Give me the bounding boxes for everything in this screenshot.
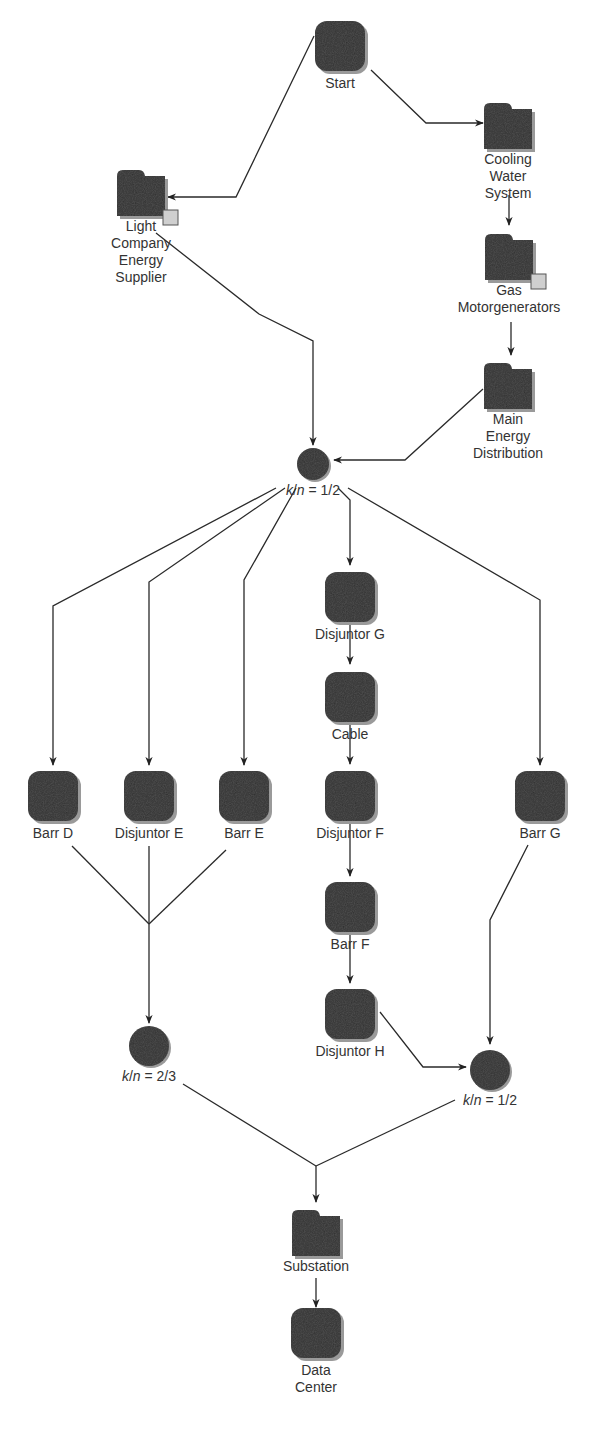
- label-kn1: k/n = 1/2: [286, 482, 340, 499]
- edge-barrG-to-kn3: [490, 845, 528, 1044]
- block-icon: [515, 771, 565, 821]
- nodes-layer: [28, 21, 568, 1361]
- edge-kn1-to-barrE: [244, 488, 296, 765]
- block-icon: [325, 771, 375, 821]
- label-kn3: k/n = 1/2: [463, 1092, 517, 1109]
- subsystem-folder-icon: [292, 1210, 340, 1256]
- node-barrG[interactable]: [515, 771, 568, 824]
- label-gas: GasMotorgenerators: [458, 282, 561, 316]
- block-icon: [325, 882, 375, 932]
- node-kn2[interactable]: [129, 1026, 171, 1068]
- node-substation[interactable]: [292, 1210, 343, 1259]
- label-cable: Cable: [332, 726, 369, 743]
- rbd-diagram: [0, 0, 595, 1430]
- block-icon: [325, 672, 375, 722]
- label-substation: Substation: [283, 1258, 349, 1275]
- node-barrF[interactable]: [325, 882, 378, 935]
- block-icon: [291, 1308, 341, 1358]
- subsystem-folder-icon: [484, 363, 532, 409]
- label-barrE: Barr E: [224, 825, 264, 842]
- block-icon: [315, 21, 365, 71]
- node-datacenter[interactable]: [291, 1308, 344, 1361]
- kn-gate-icon: [470, 1050, 510, 1090]
- edge-start-to-light: [168, 36, 314, 197]
- block-icon: [325, 572, 375, 622]
- label-kn2: k/n = 2/3: [122, 1068, 176, 1085]
- label-disjH: Disjuntor H: [315, 1043, 384, 1060]
- node-start[interactable]: [315, 21, 368, 74]
- block-icon: [28, 771, 78, 821]
- node-cable[interactable]: [325, 672, 378, 725]
- block-icon: [219, 771, 269, 821]
- label-cooling: CoolingWaterSystem: [484, 151, 531, 202]
- label-start: Start: [325, 75, 355, 92]
- edge-kn1-to-disjE: [149, 488, 285, 765]
- label-barrD: Barr D: [33, 825, 73, 842]
- edge-kn2-to-join2: [183, 1084, 316, 1166]
- node-kn1[interactable]: [297, 448, 331, 482]
- edge-barrE-to-join1: [149, 850, 226, 924]
- block-icon: [325, 989, 375, 1039]
- label-light: LightCompanyEnergySupplier: [111, 218, 171, 286]
- kn-gate-icon: [297, 448, 329, 480]
- node-disjE[interactable]: [124, 771, 177, 824]
- subsystem-folder-icon: [484, 103, 532, 149]
- node-disjG[interactable]: [325, 572, 378, 625]
- label-barrG: Barr G: [519, 825, 560, 842]
- node-disjF[interactable]: [325, 771, 378, 824]
- subsystem-folder-icon: [485, 234, 533, 280]
- block-icon: [124, 771, 174, 821]
- edge-kn1-to-barrD: [53, 488, 276, 765]
- node-main[interactable]: [484, 363, 535, 412]
- label-datacenter: DataCenter: [295, 1362, 337, 1396]
- node-disjH[interactable]: [325, 989, 378, 1042]
- edge-light-to-kn1: [156, 233, 313, 445]
- label-disjG: Disjuntor G: [315, 626, 385, 643]
- edge-kn3-to-join2: [316, 1100, 455, 1166]
- kn-gate-icon: [129, 1026, 169, 1066]
- node-kn3[interactable]: [470, 1050, 512, 1092]
- edge-start-to-cooling: [371, 70, 483, 123]
- node-barrE[interactable]: [219, 771, 272, 824]
- edge-barrD-to-join1: [72, 846, 149, 924]
- edge-kn1-to-disjG: [338, 488, 350, 565]
- label-main: MainEnergyDistribution: [473, 411, 543, 462]
- edge-main-to-kn1: [334, 389, 483, 460]
- subsystem-folder-icon: [117, 170, 165, 216]
- node-gas[interactable]: [485, 234, 546, 289]
- node-cooling[interactable]: [484, 103, 535, 152]
- label-disjF: Disjuntor F: [316, 825, 384, 842]
- edge-disjH-to-kn3: [380, 1012, 466, 1067]
- node-barrD[interactable]: [28, 771, 81, 824]
- label-barrF: Barr F: [331, 936, 370, 953]
- label-disjE: Disjuntor E: [115, 825, 183, 842]
